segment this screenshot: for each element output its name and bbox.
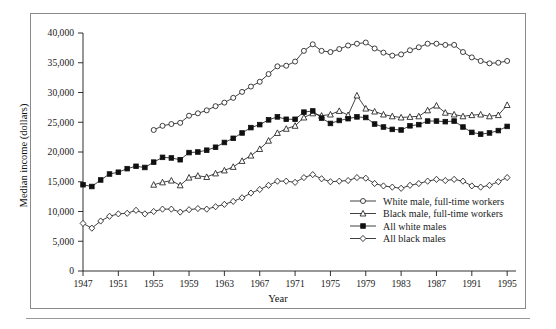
y-tick-label: 25,000	[48, 117, 75, 128]
series-1	[151, 92, 510, 187]
legend-label: White male, full-time workers	[383, 196, 504, 207]
y-tick-label: 20,000	[48, 146, 75, 157]
y-tick-label: 35,000	[48, 57, 75, 68]
x-tick-label: 1979	[356, 278, 375, 289]
legend-entry-2[interactable]: All white males	[350, 221, 446, 232]
figure-root: Median income (dollars) Year 05,00010,00…	[0, 0, 556, 329]
legend-label: All white males	[383, 221, 446, 232]
y-tick-label: 10,000	[48, 206, 75, 217]
x-tick-label: 1947	[73, 278, 92, 289]
x-tick-label: 1987	[427, 278, 446, 289]
legend-entry-0[interactable]: White male, full-time workers	[350, 196, 504, 207]
x-tick-label: 1983	[392, 278, 411, 289]
line-chart-plot: 05,00010,00015,00020,00025,00030,00035,0…	[0, 0, 556, 329]
x-tick-label: 1971	[285, 278, 304, 289]
x-tick-label: 1959	[179, 278, 198, 289]
x-tick-label: 1991	[462, 278, 481, 289]
x-tick-label: 1963	[215, 278, 234, 289]
legend-label: Black male, full-time workers	[383, 208, 503, 219]
x-tick-label: 1951	[109, 278, 128, 289]
y-tick-label: 0	[69, 265, 74, 276]
y-tick-label: 5,000	[52, 236, 74, 247]
y-tick-label: 30,000	[48, 87, 75, 98]
chart-legend: White male, full-time workersBlack male,…	[350, 196, 504, 245]
legend-entry-1[interactable]: Black male, full-time workers	[350, 208, 503, 219]
x-tick-label: 1967	[250, 278, 269, 289]
x-axis: 1947195119551959196319671971197519791983…	[73, 271, 517, 289]
x-tick-label: 1995	[498, 278, 517, 289]
x-tick-label: 1975	[321, 278, 340, 289]
legend-label: All black males	[383, 233, 446, 244]
series-2	[81, 109, 510, 189]
legend-entry-3[interactable]: All black males	[350, 233, 446, 244]
y-axis: 05,00010,00015,00020,00025,00030,00035,0…	[48, 27, 83, 276]
x-tick-label: 1955	[144, 278, 163, 289]
y-tick-label: 40,000	[48, 27, 75, 38]
y-tick-label: 15,000	[48, 176, 75, 187]
